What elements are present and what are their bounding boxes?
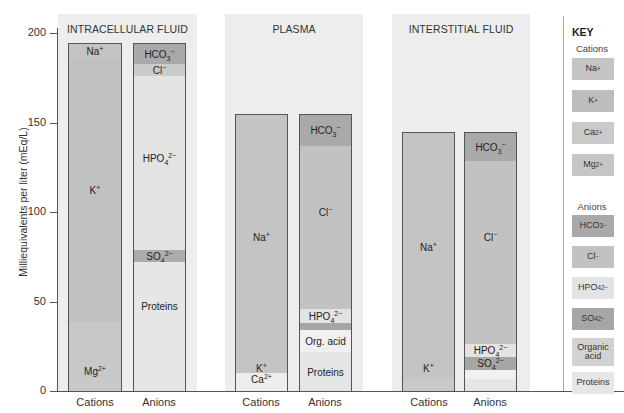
icf-hpo4-segment: HPO42− (134, 76, 185, 250)
legend-swatch-cl: Cl− (572, 246, 614, 268)
plasma-cations-bar: Na+ K+ Ca2+ (235, 114, 288, 392)
plasma-org-acid-segment: Org. acid (300, 330, 351, 352)
icf-k-segment: K+ (69, 59, 121, 322)
isf-hco3-segment: HCO3− (465, 133, 516, 161)
plasma-cations-axis-label: Cations (226, 396, 296, 408)
plasma-cl-segment: Cl− (300, 146, 351, 309)
legend-swatch-hco3: HCO3− (572, 215, 614, 237)
icf-anions-axis-label: Anions (124, 396, 194, 408)
icf-anions-bar: HCO3− Cl− HPO42− SO42− Proteins (133, 43, 186, 392)
icf-so4-label: SO42− (146, 251, 172, 262)
plasma-org-acid-label: Org. acid (305, 336, 346, 347)
y-tick-200 (50, 33, 57, 34)
icf-hco3-segment: HCO3− (134, 44, 185, 64)
y-tick-label-0: 0 (16, 384, 46, 396)
plasma-hpo4-label: HPO42− (309, 311, 343, 322)
isf-k-segment: K+ (403, 358, 454, 378)
plasma-anions-axis-label: Anions (290, 396, 360, 408)
icf-cations-bar: Na+ K+ Mg2+ (68, 43, 122, 392)
legend-swatch-hpo4: HPO42− (572, 277, 614, 299)
isf-anions-axis-label: Anions (455, 396, 525, 408)
legend-anions-heading: Anions (564, 201, 620, 212)
icf-cl-segment: Cl− (134, 64, 185, 76)
isf-cl-segment: Cl− (465, 161, 516, 344)
panel-title-icf: INTRACELLULAR FLUID (58, 23, 197, 35)
icf-k-label: K+ (90, 185, 101, 196)
isf-minor-cation-segment (403, 379, 454, 392)
legend-swatch-proteins: Proteins (572, 372, 614, 394)
isf-na-segment: Na+ (403, 133, 454, 379)
icf-cations-axis-label: Cations (60, 396, 130, 408)
legend-key: KEY Cations Na+ K+ Ca2+ Mg2+ Anions HCO3… (563, 16, 620, 391)
y-tick-0 (50, 391, 57, 392)
isf-hco3-label: HCO3− (475, 142, 505, 153)
isf-org-acid-segment (465, 370, 516, 379)
legend-cations-heading: Cations (564, 43, 620, 54)
plasma-so4-segment (300, 323, 351, 330)
isf-so4-segment: SO42− (465, 357, 516, 370)
y-tick-label-200: 200 (16, 26, 46, 38)
isf-cations-axis-label: Cations (394, 396, 464, 408)
y-tick-label-50: 50 (16, 295, 46, 307)
y-axis-title: Milliequivalents per liter (mEq/L) (17, 127, 29, 277)
plasma-cl-label: Cl− (319, 207, 333, 218)
plasma-anions-bar: HCO3− Cl− HPO42− Org. acid Proteins (299, 114, 352, 392)
isf-cl-label: Cl− (484, 232, 498, 243)
icf-na-label: Na+ (87, 46, 104, 57)
legend-swatch-na: Na+ (572, 58, 614, 80)
y-tick-150 (50, 123, 57, 124)
icf-proteins-label: Proteins (141, 301, 178, 312)
legend-title: KEY (572, 26, 594, 38)
plasma-na-segment: Na+ (236, 115, 287, 373)
isf-na-label: Na+ (420, 242, 437, 253)
icf-so4-segment: SO42− (134, 250, 185, 262)
plasma-hpo4-segment: HPO42− (300, 309, 351, 323)
isf-hpo4-label: HPO42− (474, 345, 508, 356)
isf-so4-label: SO42− (477, 358, 503, 369)
plasma-proteins-label: Proteins (307, 367, 344, 378)
icf-mg-label: Mg2+ (84, 366, 106, 377)
legend-swatch-organic-acid: Organic acid (572, 338, 614, 366)
icf-na-segment: Na+ (69, 44, 121, 59)
plasma-ca-label: Ca2+ (251, 374, 272, 385)
legend-swatch-ca: Ca2+ (572, 122, 614, 144)
isf-hpo4-segment: HPO42− (465, 344, 516, 357)
legend-swatch-mg: Mg2+ (572, 154, 614, 176)
panel-title-plasma: PLASMA (225, 23, 363, 35)
y-tick-50 (50, 302, 57, 303)
panel-title-isf: INTERSTITIAL FLUID (392, 23, 530, 35)
y-tick-100 (50, 212, 57, 213)
isf-anions-bar: HCO3− Cl− HPO42− SO42− (464, 132, 517, 392)
plasma-k-ca-segment: K+ Ca2+ (236, 355, 287, 392)
plasma-na-label: Na+ (253, 232, 270, 243)
icf-cl-label: Cl− (153, 65, 167, 76)
icf-mg-segment: Mg2+ (69, 322, 121, 392)
plasma-hco3-segment: HCO3− (300, 115, 351, 146)
icf-hco3-label: HCO3− (144, 49, 174, 60)
isf-k-label: K+ (423, 363, 434, 374)
y-tick-label-150: 150 (16, 116, 46, 128)
y-tick-label-100: 100 (16, 205, 46, 217)
icf-proteins-segment: Proteins (134, 262, 185, 392)
legend-swatch-k: K+ (572, 90, 614, 112)
isf-proteins-segment (465, 379, 516, 392)
legend-swatch-so4: SO42− (572, 308, 614, 330)
plasma-proteins-segment: Proteins (300, 352, 351, 392)
isf-cations-bar: Na+ K+ (402, 132, 455, 392)
icf-hpo4-label: HPO42− (143, 153, 177, 164)
plasma-hco3-label: HCO3− (310, 125, 340, 136)
